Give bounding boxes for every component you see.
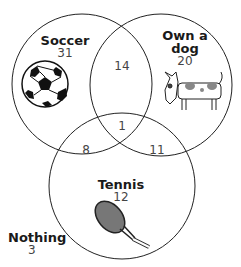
soccer-count: 31 (40, 47, 90, 60)
soccer-dog-count: 14 (114, 59, 129, 73)
dog-tennis-count: 11 (149, 143, 164, 157)
dog-icon (165, 72, 222, 110)
nothing-count: 3 (8, 244, 60, 257)
tennis-label: Tennis 12 (96, 178, 146, 204)
dog-count: 20 (150, 55, 220, 68)
soccer-tennis-count: 8 (82, 143, 90, 157)
dog-label: Own a dog 20 (150, 29, 220, 68)
all-three-count: 1 (118, 119, 126, 133)
nothing-label: Nothing 3 (8, 231, 60, 257)
soccer-ball-icon (22, 61, 68, 107)
soccer-label: Soccer 31 (40, 34, 90, 60)
tennis-count: 12 (96, 191, 146, 204)
